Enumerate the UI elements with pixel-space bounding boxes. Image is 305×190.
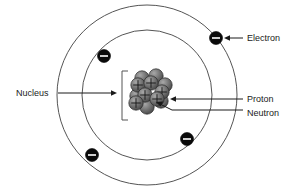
electron-icon[interactable] [181,133,194,146]
nucleus-label: Nucleus [16,88,49,98]
atom-diagram-svg: Electron Nucleus Proton Neutron [0,0,305,190]
proton-callout: Proton [170,94,274,104]
electron-icon[interactable] [210,32,223,45]
arrow-icon [224,35,230,41]
electron-label: Electron [247,33,280,43]
proton-icon [150,92,164,106]
neutron-leader-line [160,104,243,110]
nucleus-bracket [122,71,128,120]
proton-label: Proton [247,94,274,104]
electron-icon[interactable] [86,149,99,162]
electron-icon[interactable] [98,50,111,63]
bracket-icon [122,71,128,120]
atom-diagram-canvas: Electron Nucleus Proton Neutron [0,0,305,190]
electron-callout: Electron [224,33,280,43]
nucleus-callout: Nucleus [16,88,117,98]
arrow-icon [111,90,117,96]
neutron-label: Neutron [247,108,279,118]
proton-icon [129,96,143,110]
arrow-icon [170,96,176,102]
